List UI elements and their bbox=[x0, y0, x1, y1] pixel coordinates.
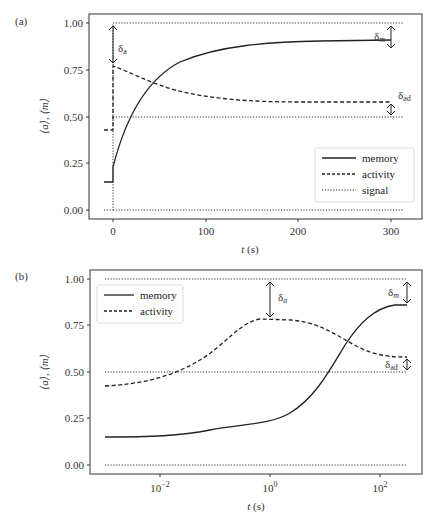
panel-b: (b) 0.00 0.25 0.50 0.75 1.00 10−2 100 10… bbox=[15, 270, 422, 513]
xtick-label: 102 bbox=[373, 480, 388, 494]
activity-line bbox=[104, 66, 391, 130]
ytick-label: 0.75 bbox=[65, 319, 85, 331]
legend-label-memory: memory bbox=[362, 152, 399, 164]
delta-m-label: δm bbox=[388, 286, 399, 300]
memory-line bbox=[105, 305, 407, 437]
legend-label-signal: signal bbox=[362, 184, 388, 196]
panel-b-label: (b) bbox=[15, 270, 28, 283]
ytick-label: 0.25 bbox=[65, 412, 85, 424]
panel-a-x-axis-label: t (s) bbox=[241, 243, 259, 256]
ytick-label: 0.50 bbox=[64, 111, 84, 123]
legend-label-memory: memory bbox=[140, 289, 177, 301]
delta-a-label: δa bbox=[278, 291, 287, 305]
panel-a-legend: memory activity signal bbox=[315, 148, 414, 202]
xtick-label: 100 bbox=[198, 225, 215, 237]
xtick-label: 10−2 bbox=[150, 480, 170, 494]
ytick-label: 0.25 bbox=[64, 157, 84, 169]
ytick-label: 0.50 bbox=[65, 366, 85, 378]
ytick-label: 1.00 bbox=[65, 273, 85, 285]
ytick-label: 0.00 bbox=[64, 204, 84, 216]
panel-b-y-axis-label: ⟨a⟩, ⟨m⟩ bbox=[38, 354, 50, 390]
ytick-label: 0.75 bbox=[64, 64, 84, 76]
xtick-label: 300 bbox=[383, 225, 400, 237]
xtick-label: 200 bbox=[290, 225, 307, 237]
figure: (a) 0.00 0.25 0.50 0.75 1.00 0 100 200 3… bbox=[0, 0, 436, 525]
delta-ad-label: δad bbox=[398, 89, 411, 103]
panel-b-x-axis-label: t (s) bbox=[247, 500, 265, 513]
legend-label-activity: activity bbox=[140, 305, 173, 317]
delta-m-label: δm bbox=[374, 30, 385, 44]
delta-ad-label: δad bbox=[385, 358, 398, 372]
activity-line bbox=[105, 319, 407, 386]
xtick-label: 0 bbox=[110, 225, 116, 237]
ytick-label: 0.00 bbox=[65, 459, 85, 471]
delta-a-label: δa bbox=[118, 42, 127, 56]
panel-a-label: (a) bbox=[15, 15, 28, 28]
panel-a: (a) 0.00 0.25 0.50 0.75 1.00 0 100 200 3… bbox=[15, 14, 422, 256]
xtick-label: 100 bbox=[263, 480, 278, 494]
panel-a-y-axis-label: ⟨a⟩, ⟨m⟩ bbox=[38, 98, 50, 134]
legend-label-activity: activity bbox=[362, 168, 395, 180]
panel-b-legend: memory activity bbox=[97, 285, 183, 323]
ytick-label: 1.00 bbox=[64, 17, 84, 29]
